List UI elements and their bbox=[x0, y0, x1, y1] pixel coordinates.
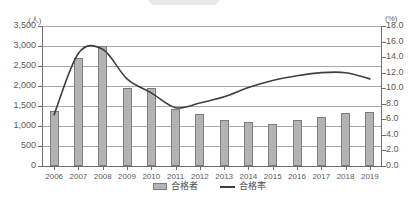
right-axis-tick-label: 10.0 bbox=[386, 82, 416, 92]
left-axis-tick-label: 2,000 bbox=[2, 80, 36, 90]
x-axis-tick bbox=[297, 166, 298, 170]
x-axis-label-2017: 2017 bbox=[309, 172, 333, 181]
x-axis-tick bbox=[273, 166, 274, 170]
right-axis-tick-label: 0.0 bbox=[386, 160, 416, 170]
x-axis-tick bbox=[248, 166, 249, 170]
x-axis-label-2013: 2013 bbox=[212, 172, 236, 181]
left-axis-tick-label: 3,500 bbox=[2, 20, 36, 30]
left-axis-tick-label: 2,500 bbox=[2, 60, 36, 70]
x-axis-tick bbox=[176, 166, 177, 170]
left-axis-tick-label: 3,000 bbox=[2, 40, 36, 50]
legend-item-line[interactable]: 合格率 bbox=[220, 182, 266, 191]
x-axis-label-2012: 2012 bbox=[188, 172, 212, 181]
x-axis-label-2008: 2008 bbox=[91, 172, 115, 181]
x-axis-tick bbox=[200, 166, 201, 170]
legend-bar-swatch-icon bbox=[153, 183, 167, 190]
right-axis-tick-label: 18.0 bbox=[386, 20, 416, 30]
x-axis-tick bbox=[346, 166, 347, 170]
x-axis-label-2016: 2016 bbox=[285, 172, 309, 181]
right-axis-tick-label: 6.0 bbox=[386, 113, 416, 123]
legend-item-bar[interactable]: 合格者 bbox=[153, 182, 198, 191]
x-axis-label-2019: 2019 bbox=[358, 172, 382, 181]
left-axis-tick-label: 0 bbox=[2, 160, 36, 170]
x-axis-tick bbox=[321, 166, 322, 170]
legend-line-swatch-icon bbox=[220, 186, 235, 188]
right-axis-tick-label: 16.0 bbox=[386, 36, 416, 46]
x-axis-label-2007: 2007 bbox=[66, 172, 90, 181]
x-axis-label-2010: 2010 bbox=[139, 172, 163, 181]
x-axis-tick bbox=[103, 166, 104, 170]
x-axis-label-2015: 2015 bbox=[261, 172, 285, 181]
legend-label-bar: 合格者 bbox=[171, 182, 198, 191]
plot-area bbox=[42, 26, 382, 166]
left-axis-tick-label: 1,500 bbox=[2, 100, 36, 110]
right-axis-tick-label: 12.0 bbox=[386, 67, 416, 77]
chart-container: (人) (%) 05001,0001,5002,0002,5003,0003,5… bbox=[0, 0, 418, 200]
right-axis-line bbox=[381, 26, 382, 167]
legend-label-line: 合格率 bbox=[239, 182, 266, 191]
right-axis-tick-label: 14.0 bbox=[386, 51, 416, 61]
line-path-pass-rate[interactable] bbox=[54, 46, 370, 115]
top-pill-decoration bbox=[148, 0, 220, 5]
left-axis-tick-label: 1,000 bbox=[2, 120, 36, 130]
x-axis-tick bbox=[54, 166, 55, 170]
right-axis-tick-label: 8.0 bbox=[386, 98, 416, 108]
line-series-group bbox=[42, 26, 382, 167]
x-axis-label-2018: 2018 bbox=[334, 172, 358, 181]
x-axis-tick bbox=[151, 166, 152, 170]
x-axis-line bbox=[42, 166, 382, 167]
x-axis-label-2014: 2014 bbox=[236, 172, 260, 181]
x-axis-label-2009: 2009 bbox=[115, 172, 139, 181]
x-axis-label-2011: 2011 bbox=[164, 172, 188, 181]
chart-legend: 合格者 合格率 bbox=[0, 182, 418, 191]
left-axis-line bbox=[42, 26, 43, 167]
right-axis-tick-label: 2.0 bbox=[386, 144, 416, 154]
x-axis-tick bbox=[370, 166, 371, 170]
x-axis-label-2006: 2006 bbox=[42, 172, 66, 181]
x-axis-tick bbox=[224, 166, 225, 170]
x-axis-tick bbox=[78, 166, 79, 170]
x-axis-tick bbox=[127, 166, 128, 170]
left-axis-tick-label: 500 bbox=[2, 140, 36, 150]
right-axis-tick-label: 4.0 bbox=[386, 129, 416, 139]
